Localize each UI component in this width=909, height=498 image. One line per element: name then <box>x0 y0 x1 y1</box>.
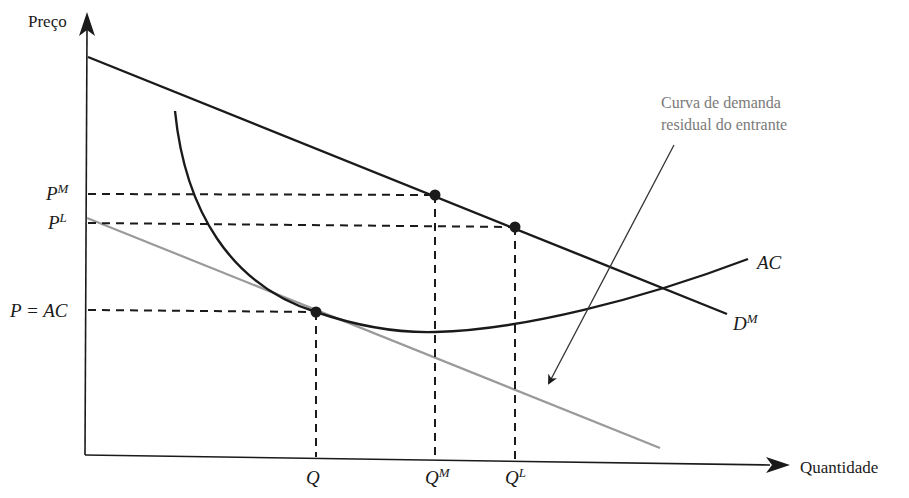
curve-label-dm: DM <box>732 311 759 334</box>
price-label-pm: PM <box>45 181 70 204</box>
curve-label-ac: AC <box>755 252 782 273</box>
x-axis-label: Quantidade <box>800 458 878 477</box>
guide-lines <box>88 194 515 460</box>
quantity-label-ql: QL <box>505 465 526 488</box>
price-label-pl: PL <box>47 210 67 233</box>
limit-price-point <box>510 222 521 233</box>
market-demand-line <box>88 57 727 314</box>
y-axis-label: Preço <box>28 12 67 31</box>
quantity-label-qm: QM <box>425 465 451 488</box>
monopoly-point <box>430 190 441 201</box>
average-cost-curve <box>175 111 748 332</box>
annotation-arrow <box>549 145 674 383</box>
price-label-p-equals-ac: P = AC <box>9 300 68 321</box>
annotation-line-1: Curva de demanda <box>661 94 781 111</box>
tangency-point <box>311 307 322 318</box>
limit-pricing-diagram: Preço Quantidade PM PL P = AC Q QM QL AC… <box>0 0 909 498</box>
y-axis <box>79 12 95 455</box>
annotation-line-2: residual do entrante <box>661 116 787 133</box>
quantity-label-q: Q <box>306 467 320 488</box>
